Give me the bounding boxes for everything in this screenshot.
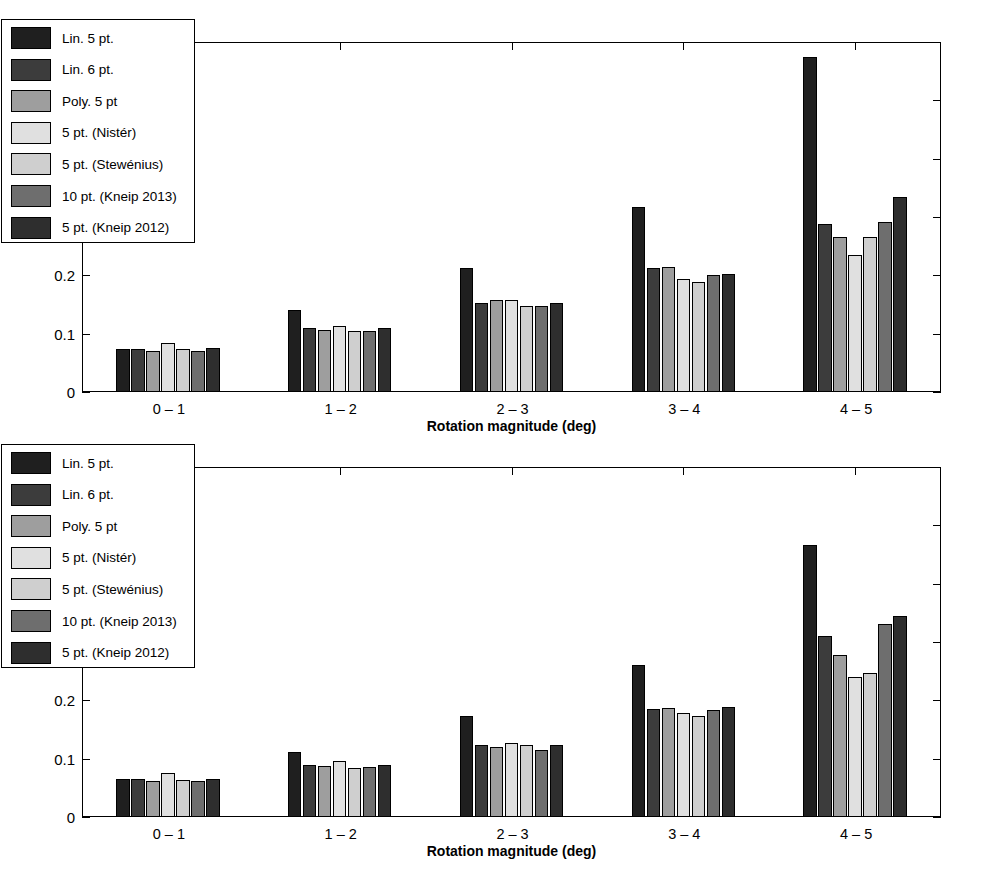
bar — [318, 330, 332, 392]
legend-item: 10 pt. (Kneip 2013) — [2, 605, 194, 637]
bar — [893, 616, 907, 817]
bar — [550, 303, 564, 392]
bar — [848, 255, 862, 392]
bar — [535, 306, 549, 392]
y-axis-tick-mirror — [933, 642, 941, 643]
legend-item-label: Poly. 5 pt — [62, 519, 117, 534]
bar — [550, 745, 564, 817]
x-axis-tick-mirror — [855, 42, 856, 50]
bar — [348, 768, 362, 817]
y-axis-tick-label: 0.1 — [54, 750, 75, 770]
x-axis-tick-label: 2 – 3 — [496, 401, 528, 417]
legend-item-label: 5 pt. (Kneip 2012) — [62, 220, 169, 235]
bar — [131, 779, 145, 817]
bar — [833, 237, 847, 392]
y-axis-tick-mirror — [933, 817, 941, 818]
bar — [490, 747, 504, 817]
y-axis-tick-label: 0 — [67, 383, 75, 403]
chart-panel-median-error: Median error (deg) 00.10.20.30.40.50.60 … — [0, 443, 986, 868]
bar — [632, 207, 646, 393]
bar — [722, 274, 736, 392]
bar — [833, 655, 847, 817]
y-axis-tick-mirror — [933, 467, 941, 468]
legend-item-label: 10 pt. (Kneip 2013) — [62, 189, 177, 204]
bar — [363, 767, 377, 817]
legend-item: 5 pt. (Kneip 2012) — [2, 212, 194, 244]
y-axis-tick-mirror — [933, 584, 941, 585]
legend-swatch-icon — [11, 610, 51, 632]
legend-top: Lin. 5 pt.Lin. 6 pt.Poly. 5 pt5 pt. (Nis… — [1, 19, 195, 243]
y-axis-tick-mirror — [933, 275, 941, 276]
legend-item: Lin. 6 pt. — [2, 479, 194, 511]
bar — [333, 326, 347, 393]
bar — [535, 750, 549, 817]
bar — [363, 331, 377, 392]
y-axis-tick: 0 — [82, 817, 90, 818]
y-axis-tick: 0.1 — [82, 759, 90, 760]
legend-item: 10 pt. (Kneip 2013) — [2, 180, 194, 212]
bar — [520, 306, 534, 392]
legend-item: Lin. 5 pt. — [2, 447, 194, 479]
bar — [803, 57, 817, 392]
bar — [505, 743, 519, 817]
bar — [475, 745, 489, 817]
y-axis-tick-label: 0 — [67, 808, 75, 828]
bar — [707, 710, 721, 817]
x-axis-tick-label: 1 – 2 — [325, 401, 357, 417]
x-axis-tick-label: 3 – 4 — [668, 826, 700, 842]
bar — [378, 328, 392, 392]
bar — [632, 665, 646, 817]
bar — [878, 222, 892, 392]
bar — [893, 197, 907, 392]
bar — [707, 275, 721, 392]
bar — [176, 349, 190, 392]
bar — [692, 282, 706, 392]
x-axis-tick-mirror — [340, 467, 341, 475]
bar — [677, 279, 691, 392]
y-axis-tick-mirror — [933, 392, 941, 393]
y-axis-tick-label: 0.2 — [54, 691, 75, 711]
y-axis-tick: 0.1 — [82, 334, 90, 335]
y-axis-tick-mirror — [933, 217, 941, 218]
y-axis-tick: 0.2 — [82, 275, 90, 276]
bar — [191, 351, 205, 392]
bar — [863, 237, 877, 392]
legend-item: 5 pt. (Stewénius) — [2, 148, 194, 180]
bar — [318, 766, 332, 817]
bar — [176, 780, 190, 817]
legend-item: 5 pt. (Stewénius) — [2, 573, 194, 605]
bar — [161, 343, 175, 392]
bar — [818, 636, 832, 817]
bar — [647, 268, 661, 392]
legend-swatch-icon — [11, 185, 51, 207]
x-axis-tick-label: 4 – 5 — [840, 826, 872, 842]
bar — [677, 713, 691, 817]
legend-swatch-icon — [11, 122, 51, 144]
y-axis-tick-mirror — [933, 42, 941, 43]
legend-item-label: 5 pt. (Stewénius) — [62, 157, 163, 172]
legend-swatch-icon — [11, 547, 51, 569]
y-axis-tick-mirror — [933, 100, 941, 101]
bar — [206, 779, 220, 818]
legend-item-label: 5 pt. (Nistér) — [62, 550, 136, 565]
bar — [378, 765, 392, 817]
x-axis-tick-label: 1 – 2 — [325, 826, 357, 842]
y-axis-tick-label: 0.1 — [54, 325, 75, 345]
legend-swatch-icon — [11, 484, 51, 506]
legend-swatch-icon — [11, 27, 51, 49]
y-axis-tick-mirror — [933, 334, 941, 335]
bar — [818, 224, 832, 392]
plot-area-top: 00.10.20.30.40.50.60 – 11 – 22 – 33 – 44… — [82, 42, 941, 392]
x-axis-tick-mirror — [855, 467, 856, 475]
x-axis-tick-mirror — [340, 42, 341, 50]
y-axis-tick-mirror — [933, 759, 941, 760]
bar — [288, 752, 302, 817]
legend-item: Lin. 5 pt. — [2, 22, 194, 54]
chart-panel-mean-error: Mean error (deg) 00.10.20.30.40.50.60 – … — [0, 18, 986, 443]
bar — [131, 349, 145, 392]
bar — [146, 781, 160, 817]
legend-swatch-icon — [11, 153, 51, 175]
legend-item-label: Lin. 5 pt. — [62, 31, 114, 46]
legend-item: 5 pt. (Nistér) — [2, 117, 194, 149]
legend-swatch-icon — [11, 452, 51, 474]
